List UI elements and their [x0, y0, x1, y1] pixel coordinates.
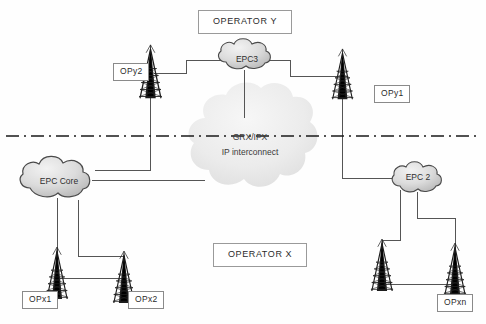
tower-opy1-icon: [332, 49, 353, 99]
operator-y-title: OPERATOR Y: [198, 10, 292, 34]
tower-label-opx1: OPx1: [22, 291, 58, 309]
link-opy1-epc2: [342, 92, 400, 178]
operator-x-title: OPERATOR X: [213, 243, 307, 267]
tower-label-opx2: OPx2: [128, 291, 164, 309]
grx-ipx-line2: IP interconnect: [195, 146, 305, 159]
tower-unlabeled-icon: [371, 239, 393, 291]
link-epc2-opxn: [417, 192, 455, 268]
epc3-cloud-shape: [219, 39, 271, 69]
epc-core-cloud-shape: [20, 156, 90, 196]
grx-ipx-line1: GRX/IPX: [205, 131, 295, 144]
tower-label-opy1: OPy1: [374, 85, 410, 103]
network-diagram: OPERATOR Y OPERATOR X EPC3 EPC Core EPC …: [0, 0, 486, 324]
tower-label-opxn: OPxn: [437, 294, 473, 312]
link-epccore-opx2: [78, 200, 124, 276]
epc2-cloud-shape: [392, 162, 441, 192]
link-epc3-opy2: [154, 60, 225, 73]
diagram-canvas: [0, 0, 486, 324]
tower-opxn-icon: [444, 243, 466, 295]
link-opy2-epccore: [95, 88, 150, 170]
link-epc3-opy1: [265, 60, 347, 76]
tower-label-opy2: OPy2: [113, 63, 149, 81]
link-epc2-towerleft: [382, 190, 400, 264]
